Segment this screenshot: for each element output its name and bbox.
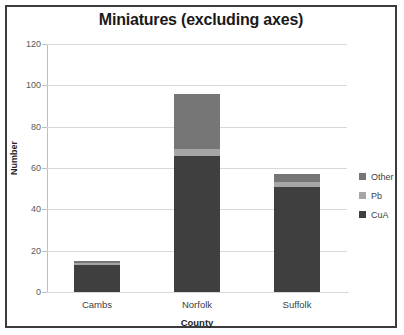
y-tick-label: 0: [7, 288, 41, 297]
x-tick-label-suffolk: Suffolk: [247, 299, 347, 310]
x-axis-title: County: [47, 317, 347, 328]
x-tick-label-norfolk: Norfolk: [147, 299, 247, 310]
chart-title: Miniatures (excluding axes): [7, 11, 395, 29]
legend-item-cua[interactable]: CuA: [359, 205, 404, 224]
y-tick-label: 100: [7, 81, 41, 90]
bar-segment-pb: [74, 263, 120, 265]
legend-label: Pb: [371, 191, 382, 201]
legend-swatch-cua-icon: [359, 211, 366, 218]
y-tick-label: 80: [7, 122, 41, 131]
legend-swatch-other-icon: [359, 173, 366, 180]
bar-segment-other: [174, 94, 220, 150]
y-tick-mark: [42, 251, 47, 252]
bar-segment-cua: [174, 156, 220, 292]
plot-area: [47, 44, 347, 292]
bar-suffolk: [274, 44, 320, 292]
bar-segment-cua: [274, 187, 320, 292]
bar-segment-pb: [274, 182, 320, 186]
bar-cambs: [74, 44, 120, 292]
bar-segment-other: [274, 174, 320, 182]
y-tick-mark: [42, 44, 47, 45]
gridline: [47, 292, 347, 293]
bar-segment-pb: [174, 149, 220, 155]
y-tick-mark: [42, 209, 47, 210]
legend-swatch-pb-icon: [359, 192, 366, 199]
legend-item-pb[interactable]: Pb: [359, 186, 404, 205]
bar-norfolk: [174, 44, 220, 292]
legend-label: CuA: [371, 210, 389, 220]
y-tick-label: 40: [7, 205, 41, 214]
y-tick-mark: [42, 292, 47, 293]
y-tick-label: 120: [7, 40, 41, 49]
y-tick-mark: [42, 168, 47, 169]
y-axis-title: Number: [9, 141, 19, 175]
y-tick-label: 20: [7, 246, 41, 255]
chart-legend: OtherPbCuA: [359, 167, 404, 224]
y-tick-mark: [42, 85, 47, 86]
bar-segment-other: [74, 261, 120, 263]
legend-item-other[interactable]: Other: [359, 167, 404, 186]
chart-frame: Miniatures (excluding axes) 020406080100…: [5, 5, 397, 328]
x-tick-label-cambs: Cambs: [47, 299, 147, 310]
y-tick-mark: [42, 127, 47, 128]
bar-segment-cua: [74, 265, 120, 292]
legend-label: Other: [371, 172, 394, 182]
